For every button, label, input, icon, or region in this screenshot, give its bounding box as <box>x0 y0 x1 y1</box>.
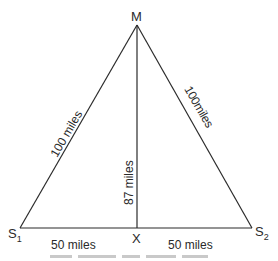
vertex-label-m: M <box>131 9 142 24</box>
diagram-canvas: M S1 S2 X 100 miles 100miles 87 miles 50… <box>0 0 278 261</box>
vertex-label-s1: S1 <box>8 226 22 244</box>
edge-m-s2 <box>137 25 252 228</box>
triangle-diagram: M S1 S2 X 100 miles 100miles 87 miles 50… <box>0 0 278 261</box>
edge-label-base-left: 50 miles <box>51 238 96 252</box>
vertex-label-s1-sub: 1 <box>17 234 22 244</box>
edge-label-right-side: 100miles <box>181 84 216 131</box>
cropped-caption <box>50 255 230 261</box>
vertex-label-s2: S2 <box>255 224 269 242</box>
vertex-label-x: X <box>132 231 141 246</box>
vertex-label-s2-sub: 2 <box>264 232 269 242</box>
vertex-label-s2-main: S <box>255 224 264 239</box>
edge-label-left-side: 100 miles <box>47 108 85 159</box>
edge-label-base-right: 50 miles <box>168 238 213 252</box>
edge-label-altitude: 87 miles <box>122 160 136 205</box>
vertex-label-s1-main: S <box>8 226 17 241</box>
